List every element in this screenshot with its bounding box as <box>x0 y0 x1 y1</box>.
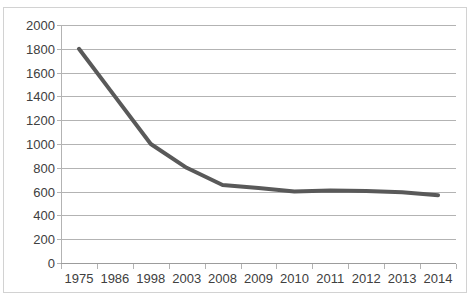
y-tick-mark-0 <box>57 263 61 264</box>
y-axis-tick-label: 1400 <box>7 90 55 103</box>
y-tick-mark-200 <box>57 239 61 240</box>
x-axis-tick-label: 2009 <box>244 272 273 285</box>
x-axis-tick-label: 2011 <box>316 272 344 285</box>
x-axis-tick-label: 1998 <box>136 272 165 285</box>
x-axis-tick-label: 2014 <box>424 272 453 285</box>
y-axis-tick-label: 1200 <box>7 114 55 127</box>
x-axis-tick-label: 1986 <box>100 272 129 285</box>
x-tick-mark <box>205 264 206 269</box>
x-tick-mark <box>348 264 349 269</box>
x-tick-mark <box>384 264 385 269</box>
y-axis-tick-label: 200 <box>7 233 55 246</box>
data-series-line <box>61 25 456 263</box>
y-tick-mark-1800 <box>57 49 61 50</box>
x-tick-mark <box>456 264 457 269</box>
x-axis-tick-label: 2008 <box>208 272 237 285</box>
y-tick-mark-1200 <box>57 120 61 121</box>
gridline-0 <box>61 263 456 264</box>
x-tick-mark <box>97 264 98 269</box>
y-tick-mark-1400 <box>57 96 61 97</box>
series-polyline <box>79 49 438 195</box>
x-tick-mark <box>241 264 242 269</box>
x-axis-tick-label: 2013 <box>388 272 417 285</box>
y-axis-tick-label: 800 <box>7 161 55 174</box>
y-axis-tick-label: 0 <box>7 257 55 270</box>
y-axis-tick-label: 2000 <box>7 19 55 32</box>
x-tick-mark <box>420 264 421 269</box>
x-axis-tick-label: 1975 <box>64 272 93 285</box>
x-tick-mark <box>169 264 170 269</box>
x-tick-mark <box>276 264 277 269</box>
x-axis-tick-label: 2010 <box>280 272 309 285</box>
plot-area <box>61 25 456 263</box>
y-axis-tick-label: 1600 <box>7 66 55 79</box>
y-tick-mark-1000 <box>57 144 61 145</box>
chart-frame: 0200400600800100012001400160018002000 19… <box>3 7 467 293</box>
x-tick-mark <box>133 264 134 269</box>
x-tick-mark <box>61 264 62 269</box>
y-tick-mark-400 <box>57 215 61 216</box>
y-axis-tick-label: 1800 <box>7 42 55 55</box>
y-tick-mark-1600 <box>57 73 61 74</box>
x-tick-mark <box>312 264 313 269</box>
y-axis-tick-label: 600 <box>7 185 55 198</box>
y-tick-mark-2000 <box>57 25 61 26</box>
y-axis-tick-label: 400 <box>7 209 55 222</box>
y-tick-mark-800 <box>57 168 61 169</box>
y-tick-mark-600 <box>57 192 61 193</box>
y-axis-labels: 0200400600800100012001400160018002000 <box>4 8 55 302</box>
x-axis-tick-label: 2003 <box>172 272 201 285</box>
y-axis-tick-label: 1000 <box>7 138 55 151</box>
x-axis-tick-label: 2012 <box>352 272 381 285</box>
